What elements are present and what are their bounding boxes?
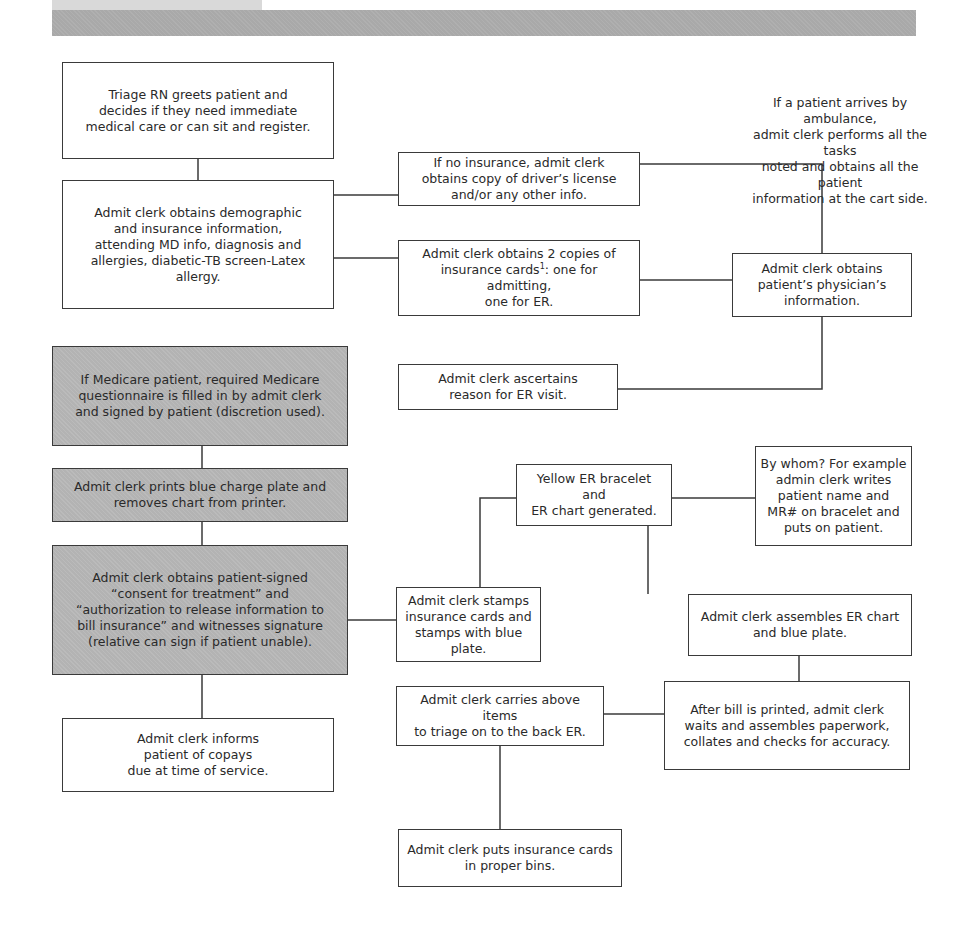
node-after-bill: After bill is printed, admit clerk waits… <box>664 681 910 770</box>
node-physician-info: Admit clerk obtains patient’s physician’… <box>732 253 912 317</box>
node-by-whom: By whom? For example admin clerk writes … <box>755 446 912 546</box>
node-no-insurance: If no insurance, admit clerk obtains cop… <box>398 152 640 206</box>
node-medicare: If Medicare patient, required Medicare q… <box>52 346 348 446</box>
node-yellow-bracelet: Yellow ER bracelet and ER chart generate… <box>516 464 672 526</box>
node-stamps: Admit clerk stamps insurance cards and s… <box>396 587 541 662</box>
node-blue-plate: Admit clerk prints blue charge plate and… <box>52 468 348 522</box>
node-consent: Admit clerk obtains patient-signed “cons… <box>52 545 348 675</box>
node-proper-bins: Admit clerk puts insurance cards in prop… <box>398 829 622 887</box>
node-copays: Admit clerk informs patient of copays du… <box>62 718 334 792</box>
node-triage: Triage RN greets patient and decides if … <box>62 62 334 159</box>
node-insurance-copies: Admit clerk obtains 2 copies of insuranc… <box>398 240 640 316</box>
ambulance-note: If a patient arrives by ambulance, admit… <box>740 95 940 207</box>
node-ascertains-reason: Admit clerk ascertains reason for ER vis… <box>398 364 618 410</box>
node-carries-items: Admit clerk carries above items to triag… <box>396 686 604 746</box>
insurance-copies-text: Admit clerk obtains 2 copies of insuranc… <box>407 246 631 310</box>
node-assembles-chart: Admit clerk assembles ER chart and blue … <box>688 594 912 656</box>
node-demographic: Admit clerk obtains demographic and insu… <box>62 180 334 309</box>
